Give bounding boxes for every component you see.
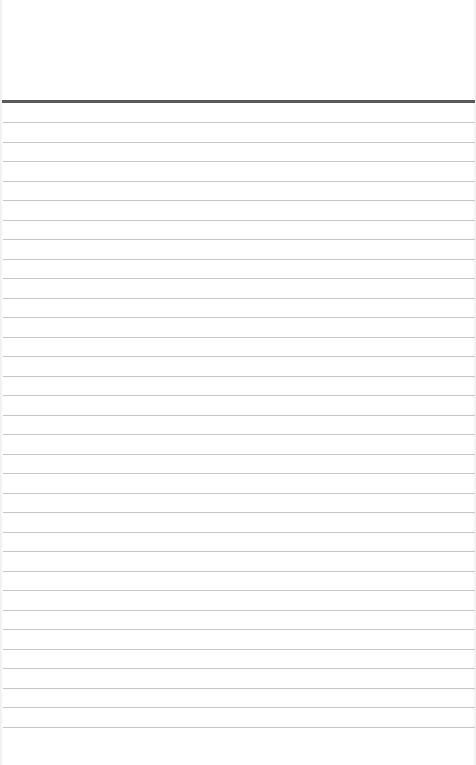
paper-edge-left xyxy=(0,0,3,765)
ruled-line xyxy=(3,688,475,689)
ruled-line xyxy=(3,122,475,123)
ruled-line xyxy=(3,512,475,513)
ruled-line xyxy=(3,317,475,318)
header-rule xyxy=(2,100,475,103)
ruled-line xyxy=(3,727,475,728)
header-area xyxy=(0,0,476,100)
ruled-line xyxy=(3,668,475,669)
ruled-line xyxy=(3,629,475,630)
ruled-line xyxy=(3,376,475,377)
ruled-line xyxy=(3,493,475,494)
ruled-line xyxy=(3,551,475,552)
ruled-line xyxy=(3,707,475,708)
ruled-line xyxy=(3,415,475,416)
ruled-line xyxy=(3,395,475,396)
ruled-line xyxy=(3,259,475,260)
ruled-line xyxy=(3,239,475,240)
ruled-line xyxy=(3,649,475,650)
ruled-line xyxy=(3,356,475,357)
ruled-line xyxy=(3,590,475,591)
ruled-line xyxy=(3,434,475,435)
ruled-line xyxy=(3,220,475,221)
ruled-line xyxy=(3,571,475,572)
ruled-line xyxy=(3,200,475,201)
ruled-line xyxy=(3,278,475,279)
ruled-line xyxy=(3,473,475,474)
ruled-line xyxy=(3,337,475,338)
ruled-line xyxy=(3,298,475,299)
ruled-line xyxy=(3,142,475,143)
notepad-page xyxy=(0,0,476,765)
ruled-line xyxy=(3,181,475,182)
ruled-line xyxy=(3,454,475,455)
ruled-line xyxy=(3,161,475,162)
ruled-line xyxy=(3,610,475,611)
ruled-line xyxy=(3,532,475,533)
